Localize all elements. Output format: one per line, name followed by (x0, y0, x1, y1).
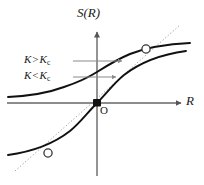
marker-lower-fixed-point (44, 149, 52, 157)
annotation-k-below-subscript: c (47, 74, 50, 83)
plot-canvas (0, 0, 204, 185)
annotation-k-above-relation: > (31, 53, 39, 65)
annotation-k-below-relation: < (31, 69, 39, 81)
annotation-k-above-subscript: c (47, 58, 50, 67)
annotation-k-below-target: K (40, 69, 47, 81)
bifurcation-figure: S(R) R O K>Kc K<Kc (0, 0, 204, 185)
x-axis-label: R (186, 94, 194, 107)
y-axis-label: S(R) (77, 6, 100, 19)
annotation-k-above-critical: K>Kc (24, 54, 50, 67)
annotation-k-above-target: K (40, 53, 47, 65)
annotation-k-below-critical: K<Kc (24, 70, 50, 83)
origin-label: O (100, 105, 108, 116)
marker-upper-fixed-point (142, 45, 150, 53)
